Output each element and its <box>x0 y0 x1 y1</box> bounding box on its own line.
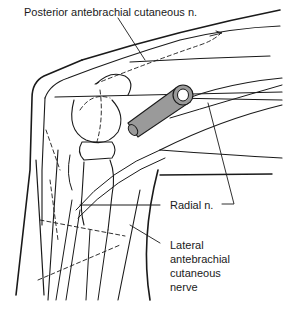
capitellum <box>96 74 131 95</box>
label-radial-nerve: Radial n. <box>170 198 213 212</box>
label-lateral-antebrachial-line1: Lateral <box>170 238 204 252</box>
label-lateral-antebrachial-line2: antebrachial <box>170 252 230 266</box>
anatomy-illustration <box>0 0 292 310</box>
label-lateral-antebrachial-line3: cutaneous <box>170 266 221 280</box>
radial-head <box>79 142 115 160</box>
cannula <box>126 85 193 137</box>
label-posterior-antebrachial-cutaneous-nerve: Posterior antebrachial cutaneous n. <box>24 5 197 19</box>
label-lateral-antebrachial-line4: nerve <box>170 280 198 294</box>
